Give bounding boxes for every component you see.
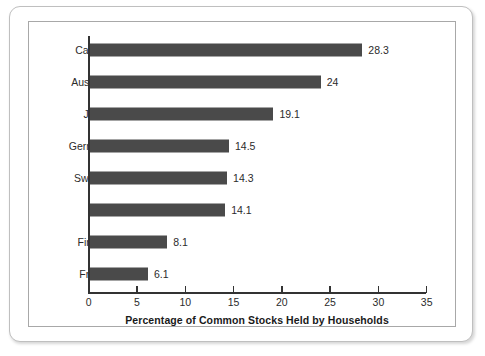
bar-track: 24 [89, 76, 338, 89]
bar-value-label: 24 [327, 77, 339, 88]
x-axis-tick [136, 286, 137, 293]
x-axis-tick [281, 286, 282, 293]
bar [89, 268, 148, 281]
bar-track: 8.1 [89, 236, 188, 249]
x-axis-tick [185, 286, 186, 293]
bar-value-label: 14.5 [235, 141, 255, 152]
bar [89, 76, 321, 89]
bar [89, 236, 167, 249]
x-axis-tick [426, 286, 427, 293]
bar-track: 19.1 [89, 108, 300, 121]
bar-value-label: 6.1 [154, 269, 169, 280]
bar-track: 14.1 [89, 204, 252, 217]
bar [89, 44, 362, 57]
bar-row: Sweden14.3 [29, 162, 455, 194]
chart-plot-frame: Canada28.3Australia24Japan19.1Germany14.… [28, 21, 456, 327]
x-axis-tick-label: 5 [134, 296, 140, 308]
y-axis-line [88, 36, 90, 294]
bar-value-label: 8.1 [173, 237, 188, 248]
x-axis-tick-label: 30 [373, 296, 385, 308]
bar [89, 108, 273, 121]
bar-value-label: 14.3 [233, 173, 253, 184]
bar-row: U.K.14.1 [29, 194, 455, 226]
bar [89, 172, 227, 185]
bar-track: 14.3 [89, 172, 254, 185]
bar-chart: Canada28.3Australia24Japan19.1Germany14.… [29, 22, 455, 326]
x-axis-tick [329, 286, 330, 293]
figure-card: Canada28.3Australia24Japan19.1Germany14.… [9, 6, 473, 342]
bar-value-label: 28.3 [368, 45, 388, 56]
bar [89, 204, 225, 217]
bar-track: 14.5 [89, 140, 255, 153]
bar-row: Germany14.5 [29, 130, 455, 162]
bar-row: Finland8.1 [29, 226, 455, 258]
bar-value-label: 19.1 [279, 109, 299, 120]
bar-row: France6.1 [29, 258, 455, 290]
x-axis-line [88, 292, 426, 294]
bar-row: Australia24 [29, 66, 455, 98]
x-axis-tick-label: 20 [276, 296, 288, 308]
x-axis-tick-label: 25 [324, 296, 336, 308]
x-axis-title: Percentage of Common Stocks Held by Hous… [88, 314, 426, 326]
x-axis-tick-label: 15 [228, 296, 240, 308]
x-axis-tick [378, 286, 379, 293]
x-axis-tick [88, 286, 89, 293]
x-axis-tick-label: 10 [179, 296, 191, 308]
bar-track: 28.3 [89, 44, 389, 57]
bar-value-label: 14.1 [231, 205, 251, 216]
bar-row: Canada28.3 [29, 34, 455, 66]
x-axis-tick [233, 286, 234, 293]
bar-track: 6.1 [89, 268, 169, 281]
bar [89, 140, 229, 153]
x-axis-tick-label: 35 [421, 296, 433, 308]
bar-row: Japan19.1 [29, 98, 455, 130]
x-axis-tick-label: 0 [86, 296, 92, 308]
